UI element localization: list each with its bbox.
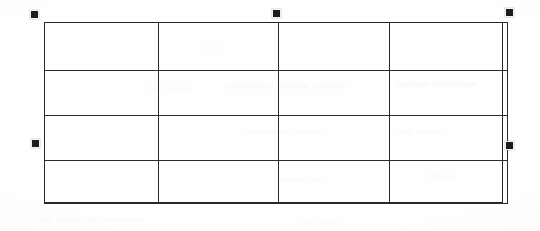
ghost-text: — —— [300,214,340,226]
table-grid[interactable] [44,22,508,204]
resize-handle-top-right[interactable] [505,8,514,17]
resize-handle-middle-left[interactable] [31,139,40,148]
table-cell[interactable] [45,23,159,71]
table-cell[interactable] [279,161,390,204]
table-cell[interactable] [390,161,508,204]
table-cell[interactable] [279,23,390,71]
table-cell[interactable] [390,116,508,161]
ghost-text: — —— — ——— [40,212,143,227]
table-cell[interactable] [45,71,159,116]
table-cell[interactable] [279,71,390,116]
table-cell[interactable] [45,116,159,161]
table-cell[interactable] [279,116,390,161]
selected-table[interactable] [44,22,503,203]
resize-handle-top-left[interactable] [30,10,39,19]
table-cell[interactable] [159,116,279,161]
table-row[interactable] [45,116,508,161]
table-row[interactable] [45,23,508,71]
table-row[interactable] [45,71,508,116]
table-cell[interactable] [159,71,279,116]
table-cell[interactable] [159,23,279,71]
table-body [45,23,508,204]
table-cell[interactable] [45,161,159,204]
resize-handle-top-center[interactable] [272,9,281,18]
table-row[interactable] [45,161,508,204]
document-canvas: ——— —— —— —— ——— — —— ——— —— — —— —— — —… [0,0,540,231]
resize-handle-middle-right[interactable] [505,141,514,150]
table-cell[interactable] [390,23,508,71]
table-cell[interactable] [159,161,279,204]
table-cell[interactable] [390,71,508,116]
